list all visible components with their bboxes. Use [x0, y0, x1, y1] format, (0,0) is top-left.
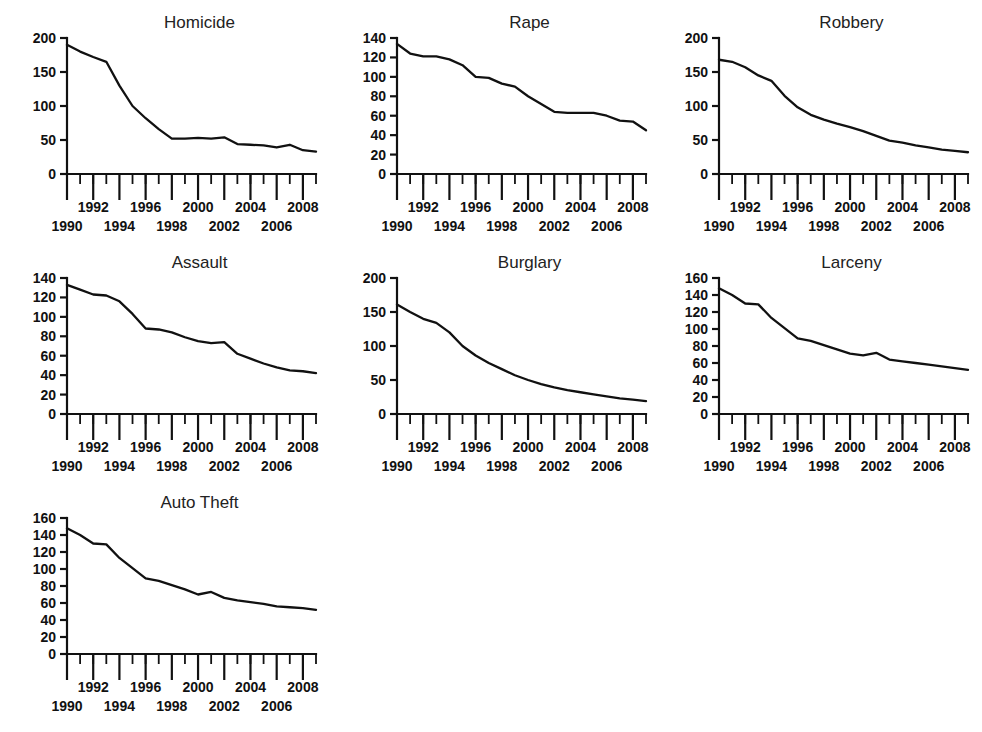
series-line	[67, 285, 316, 373]
x-tick-label-upper: 2000	[834, 439, 865, 455]
y-tick-label: 20	[40, 629, 56, 645]
y-tick-label: 120	[685, 304, 709, 320]
y-tick-label: 80	[40, 328, 56, 344]
x-tick-label-upper: 1996	[130, 679, 161, 695]
y-tick-label: 80	[692, 338, 708, 354]
x-tick-label-lower: 2002	[539, 458, 570, 474]
y-tick-label: 60	[40, 595, 56, 611]
y-tick-label: 0	[378, 406, 386, 422]
y-tick-label: 200	[685, 30, 709, 46]
x-tick-label-lower: 2002	[861, 218, 892, 234]
small-multiples-chart-grid: Homicide05010015020019901994199820022006…	[0, 0, 982, 732]
y-tick-label: 0	[700, 166, 708, 182]
y-tick-label: 140	[685, 287, 709, 303]
series-line	[67, 528, 316, 610]
x-tick-label-upper: 1996	[460, 199, 491, 215]
x-tick-label-upper: 1996	[130, 199, 161, 215]
x-tick-label-lower: 1998	[486, 218, 517, 234]
x-tick-label-lower: 1994	[104, 218, 135, 234]
y-tick-label: 0	[48, 406, 56, 422]
chart-panel-assault: Assault020406080100120140199019941998200…	[0, 240, 330, 480]
x-tick-label-upper: 2004	[565, 439, 596, 455]
x-axis-labels: 1990199419982002200619921996200020042008	[51, 679, 318, 714]
x-tick-label-lower: 2002	[861, 458, 892, 474]
x-tick-label-lower: 2002	[209, 458, 240, 474]
x-tick-label-upper: 2008	[287, 439, 318, 455]
y-tick-label: 120	[33, 289, 57, 305]
chart-title: Rape	[509, 13, 550, 32]
x-tick-label-lower: 1998	[156, 698, 187, 714]
x-tick-label-upper: 2004	[887, 439, 918, 455]
x-tick-label-upper: 2004	[565, 199, 596, 215]
x-tick-label-upper: 1992	[730, 199, 761, 215]
y-tick-label: 150	[363, 304, 387, 320]
y-tick-label: 120	[33, 544, 57, 560]
chart-title: Larceny	[821, 253, 882, 272]
chart-title: Robbery	[819, 13, 884, 32]
x-tick-label-lower: 1990	[51, 458, 82, 474]
x-tick-label-upper: 1992	[78, 679, 109, 695]
y-tick-label: 140	[33, 270, 57, 286]
x-tick-label-upper: 2000	[182, 679, 213, 695]
series-line	[719, 60, 968, 152]
y-tick-label: 150	[685, 64, 709, 80]
x-tick-label-upper: 1992	[730, 439, 761, 455]
y-axis-ticks: 020406080100120140	[363, 30, 397, 182]
x-tick-label-upper: 2008	[617, 199, 648, 215]
x-tick-label-lower: 1990	[381, 458, 412, 474]
y-tick-label: 140	[363, 30, 387, 46]
y-tick-label: 40	[370, 127, 386, 143]
x-tick-label-lower: 1990	[51, 218, 82, 234]
x-tick-label-upper: 2008	[287, 679, 318, 695]
y-tick-label: 60	[40, 348, 56, 364]
x-axis-labels: 1990199419982002200619921996200020042008	[51, 439, 318, 474]
y-tick-label: 20	[692, 389, 708, 405]
x-tick-label-lower: 1994	[104, 698, 135, 714]
x-axis-ticks	[67, 174, 316, 200]
x-tick-label-upper: 1992	[408, 439, 439, 455]
y-tick-label: 60	[370, 108, 386, 124]
chart-title: Assault	[172, 253, 228, 272]
x-tick-label-lower: 1994	[104, 458, 135, 474]
y-tick-label: 100	[363, 338, 387, 354]
y-axis-ticks: 020406080100120140160	[33, 510, 67, 662]
x-tick-label-upper: 2004	[887, 199, 918, 215]
x-tick-label-upper: 2000	[182, 199, 213, 215]
y-tick-label: 0	[48, 646, 56, 662]
x-tick-label-upper: 2004	[235, 199, 266, 215]
x-tick-label-upper: 1996	[782, 199, 813, 215]
x-tick-label-lower: 2006	[261, 698, 292, 714]
chart-panel-auto-theft: Auto Theft020406080100120140160199019941…	[0, 480, 330, 720]
y-tick-label: 160	[33, 510, 57, 526]
x-tick-label-upper: 1992	[78, 199, 109, 215]
x-tick-label-lower: 2002	[539, 218, 570, 234]
y-tick-label: 100	[685, 98, 709, 114]
y-tick-label: 140	[33, 527, 57, 543]
y-tick-label: 60	[692, 355, 708, 371]
x-tick-label-lower: 2006	[261, 218, 292, 234]
y-tick-label: 80	[370, 88, 386, 104]
y-tick-label: 40	[692, 372, 708, 388]
x-tick-label-lower: 2002	[209, 698, 240, 714]
y-tick-label: 100	[33, 98, 57, 114]
chart-panel-robbery: Robbery050100150200199019941998200220061…	[652, 0, 982, 240]
y-tick-label: 100	[33, 561, 57, 577]
y-axis-ticks: 050100150200	[685, 30, 719, 182]
x-tick-label-upper: 1992	[78, 439, 109, 455]
x-tick-label-lower: 2002	[209, 218, 240, 234]
x-axis-ticks	[719, 414, 968, 440]
x-tick-label-upper: 2004	[235, 679, 266, 695]
y-tick-label: 80	[40, 578, 56, 594]
y-tick-label: 0	[700, 406, 708, 422]
series-line	[397, 305, 646, 402]
chart-panel-homicide: Homicide05010015020019901994199820022006…	[0, 0, 330, 240]
x-tick-label-lower: 1998	[808, 458, 839, 474]
x-tick-label-lower: 1994	[434, 458, 465, 474]
x-tick-label-lower: 1994	[434, 218, 465, 234]
x-tick-label-lower: 1998	[156, 218, 187, 234]
y-tick-label: 20	[40, 387, 56, 403]
x-tick-label-lower: 2006	[591, 218, 622, 234]
x-tick-label-lower: 2006	[913, 458, 944, 474]
chart-panel-rape: Rape020406080100120140199019941998200220…	[330, 0, 660, 240]
x-tick-label-upper: 2000	[512, 439, 543, 455]
